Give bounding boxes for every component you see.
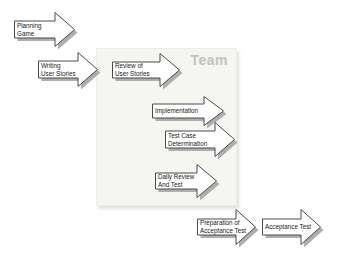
label-line: Acceptance Test [265, 223, 317, 231]
process-step-label: Review of User Stories [115, 62, 176, 78]
label-line: Review of [115, 62, 176, 70]
process-step-label: Implementation [155, 104, 220, 118]
process-step-label: Writing User Stories [41, 61, 94, 78]
label-line: Game [17, 30, 71, 38]
label-line: Planning [17, 22, 71, 30]
label-line: Daily Review [158, 173, 213, 181]
process-step-review-of-user-stories: Review of User Stories [112, 53, 180, 87]
label-line: Determination [168, 140, 231, 148]
process-step-planning-game: Planning Game [14, 12, 75, 47]
process-step-label: Acceptance Test [265, 219, 317, 235]
label-line: Implementation [155, 107, 220, 115]
process-step-label: Preparation of Acceptance Test [200, 219, 252, 235]
process-step-writing-user-stories: Writing User Stories [38, 52, 98, 87]
process-step-preparation-of-acceptance-test: Preparation of Acceptance Test [197, 209, 256, 245]
label-line: User Stories [115, 70, 176, 78]
process-step-acceptance-test: Acceptance Test [262, 209, 321, 245]
process-diagram-canvas: Team Planning Game Writing User Stories … [0, 0, 342, 263]
label-line: Preparation of [200, 219, 252, 227]
label-line: And Test [158, 181, 213, 189]
process-step-label: Daily Review And Test [158, 173, 213, 189]
process-step-daily-review-and-test: Daily Review And Test [155, 164, 217, 198]
team-box-label: Team [190, 52, 228, 68]
process-step-label: Test Case Determination [168, 131, 231, 148]
label-line: Writing [41, 62, 94, 70]
label-line: User Stories [41, 70, 94, 78]
label-line: Acceptance Test [200, 227, 252, 235]
process-step-label: Planning Game [17, 21, 71, 38]
process-step-test-case-determination: Test Case Determination [165, 122, 235, 157]
label-line: Test Case [168, 132, 231, 140]
